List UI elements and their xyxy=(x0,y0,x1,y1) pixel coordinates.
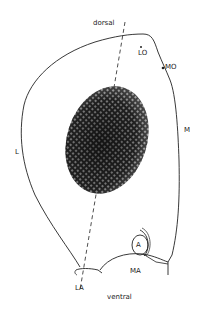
median-ocellus-dot xyxy=(162,67,165,70)
label-lateral: L xyxy=(15,149,19,156)
label-dorsal: dorsal xyxy=(93,20,115,27)
label-medial: M xyxy=(184,127,190,134)
label-lateral-ocellus: LO xyxy=(138,50,147,57)
label-median-ocellus: MO xyxy=(165,64,177,71)
mouthpart-outline xyxy=(76,254,168,273)
lateral-ocellus-dot xyxy=(140,46,142,48)
diagram-canvas xyxy=(0,0,198,312)
label-antenna: A xyxy=(136,242,141,249)
label-median-area: MA xyxy=(130,268,141,275)
label-ventral: ventral xyxy=(107,294,132,301)
label-lateral-area: LA xyxy=(75,285,84,292)
